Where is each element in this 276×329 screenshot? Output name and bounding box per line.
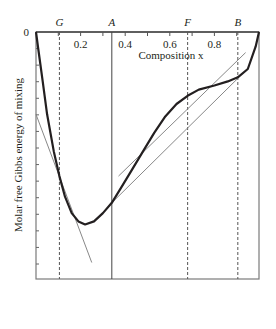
marker-label-G: G	[55, 16, 63, 28]
tangent-at-F	[119, 53, 246, 177]
x-tick-label: 0.6	[163, 38, 177, 50]
y-zero-label: 0	[24, 26, 30, 38]
plot-frame	[36, 32, 259, 279]
x-axis-label: Composition x	[138, 49, 204, 61]
composition-markers	[59, 32, 237, 279]
y-axis-label: Molar free Gibbs energy of mixing	[12, 77, 24, 232]
marker-label-B: B	[234, 16, 241, 28]
x-tick-label: 0.8	[208, 38, 222, 50]
marker-label-F: F	[183, 16, 191, 28]
plot-border	[36, 32, 259, 279]
tangent-A-B	[112, 77, 239, 203]
x-tick-label: 0.2	[74, 38, 88, 50]
x-axis-label-text: Composition x	[138, 49, 204, 61]
marker-label-A: A	[107, 16, 115, 28]
gibbs-energy-diagram: 0 Composition x Molar free Gibbs energy …	[0, 0, 276, 329]
x-tick-label: 0.4	[118, 38, 132, 50]
marker-labels: GAFB	[55, 16, 241, 28]
tangent-lines	[36, 53, 246, 263]
